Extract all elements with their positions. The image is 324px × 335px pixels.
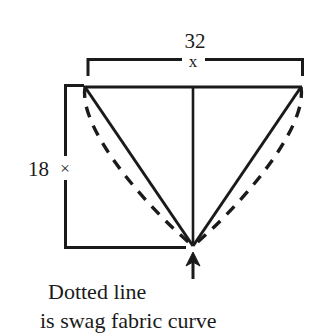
width-value-label: 32 — [185, 29, 206, 53]
up-arrow-icon — [186, 252, 200, 279]
width-variable-label: x — [189, 52, 198, 71]
height-value-label: 18 — [28, 157, 49, 181]
caption-line-2: is swag fabric curve — [40, 308, 217, 333]
diagram-root: 32 x 18 × — [0, 0, 324, 335]
height-variable-label: × — [60, 159, 70, 178]
triangle-left-edge — [85, 87, 193, 246]
swag-diagram-svg: 32 x 18 × — [0, 0, 324, 335]
triangle-right-edge — [193, 87, 301, 246]
caption-line-1: Dotted line — [48, 279, 146, 304]
